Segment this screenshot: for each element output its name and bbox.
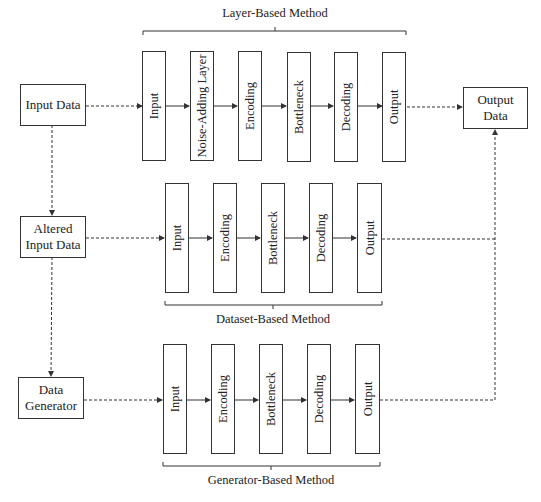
generator-decoding-box: Decoding — [307, 344, 331, 454]
layer-input-label: Input — [147, 93, 162, 119]
altered-input-data-label: Altered Input Data — [22, 221, 84, 254]
dataset-decoding-label: Decoding — [314, 214, 329, 263]
layer-decoding-box: Decoding — [334, 52, 358, 162]
dataset-based-method-title: Dataset-Based Method — [216, 312, 330, 327]
layer-decoding-label: Decoding — [339, 83, 354, 132]
input-data-label: Input Data — [25, 97, 80, 113]
layer-noise-adding-box: Noise-Adding Layer — [190, 51, 214, 161]
generator-based-method-title: Generator-Based Method — [208, 473, 334, 488]
layer-input-box: Input — [142, 51, 166, 161]
layer-output-box: Output — [382, 52, 406, 162]
generator-bottleneck-label: Bottleneck — [264, 372, 279, 426]
data-generator-box: Data Generator — [18, 377, 84, 419]
layer-bottleneck-label: Bottleneck — [292, 80, 307, 134]
input-data-box: Input Data — [20, 84, 86, 126]
altered-input-data-box: Altered Input Data — [20, 216, 86, 258]
data-generator-label: Data Generator — [20, 382, 82, 415]
dataset-decoding-box: Decoding — [309, 183, 333, 293]
dataset-encoding-label: Encoding — [218, 214, 233, 262]
dataset-input-label: Input — [170, 225, 185, 251]
layer-noise-adding-label: Noise-Adding Layer — [195, 54, 210, 157]
generator-brace — [163, 462, 380, 466]
layer-output-label: Output — [387, 90, 402, 125]
generator-decoding-label: Decoding — [312, 375, 327, 424]
generator-bottleneck-box: Bottleneck — [259, 344, 283, 454]
generator-output-label: Output — [360, 382, 375, 417]
dataset-input-box: Input — [165, 183, 189, 293]
generator-input-label: Input — [168, 386, 183, 412]
layer-encoding-box: Encoding — [238, 51, 262, 161]
layer-encoding-label: Encoding — [243, 82, 258, 130]
dataset-output-box: Output — [357, 183, 382, 293]
output-data-label: Output Data — [465, 92, 527, 125]
dataset-bottleneck-box: Bottleneck — [261, 183, 285, 293]
layer-brace — [143, 31, 406, 35]
generator-input-box: Input — [163, 344, 187, 454]
generator-output-box: Output — [355, 344, 380, 454]
dataset-bottleneck-label: Bottleneck — [266, 211, 281, 265]
layer-bottleneck-box: Bottleneck — [287, 52, 311, 162]
generator-encoding-box: Encoding — [211, 344, 235, 454]
dataset-output-label: Output — [362, 221, 377, 256]
layer-based-method-title: Layer-Based Method — [222, 6, 328, 21]
output-data-box: Output Data — [463, 87, 528, 129]
generator-encoding-label: Encoding — [216, 375, 231, 423]
dataset-brace — [165, 301, 382, 305]
dataset-encoding-box: Encoding — [213, 183, 237, 293]
